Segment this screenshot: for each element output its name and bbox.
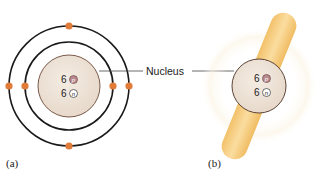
panel-a-label: (a) <box>6 157 19 170</box>
atom-diagram: 6 p 6 n (a) Nucleus 6 p 6 n (b) <box>0 0 318 184</box>
proton-symbol-b: p <box>264 76 269 82</box>
neutron-count-a: 6 <box>61 88 67 99</box>
proton-symbol-a: p <box>71 77 76 83</box>
electron <box>5 82 12 89</box>
electron <box>125 82 132 89</box>
electron <box>21 82 28 89</box>
panel-b-cloud-model: 6 p 6 n (b) <box>201 9 317 170</box>
nucleus-a <box>38 55 100 117</box>
panel-a-bohr-model: 6 p 6 n (a) <box>5 22 132 170</box>
proton-count-a: 6 <box>61 74 67 85</box>
electron <box>65 142 72 149</box>
electron <box>109 82 116 89</box>
nucleus-b <box>232 59 286 113</box>
electron <box>65 22 72 29</box>
neutron-count-b: 6 <box>254 87 260 98</box>
panel-b-label: (b) <box>208 157 221 170</box>
proton-count-b: 6 <box>254 73 260 84</box>
nucleus-label: Nucleus <box>146 65 184 77</box>
